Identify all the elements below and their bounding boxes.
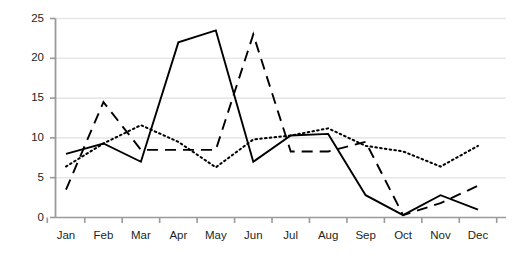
x-tick-label: Jan [46,229,86,241]
y-tick-label: 5 [18,172,44,183]
x-tick-label: Jul [271,229,311,241]
x-axis-ticks [47,218,496,224]
y-tick-label: 10 [18,132,44,143]
x-tick-label: Mar [121,229,161,241]
y-tick-label: 15 [18,92,44,103]
x-tick-label: Jun [233,229,273,241]
plot-area [0,0,525,259]
x-tick-label: Dec [458,229,498,241]
series-dashed [66,34,478,215]
x-tick-label: Feb [83,229,123,241]
x-tick-label: Sep [346,229,386,241]
x-tick-label: Apr [158,229,198,241]
x-tick-label: Aug [308,229,348,241]
y-tick-label: 0 [18,212,44,223]
y-tick-label: 25 [18,13,44,24]
x-tick-label: Oct [383,229,423,241]
y-tick-label: 20 [18,52,44,63]
x-tick-label: Nov [421,229,461,241]
series-dotted [66,125,478,167]
line-chart: 2520151050 JanFebMarAprMayJunJulAugSepOc… [0,0,525,259]
x-tick-label: May [196,229,236,241]
